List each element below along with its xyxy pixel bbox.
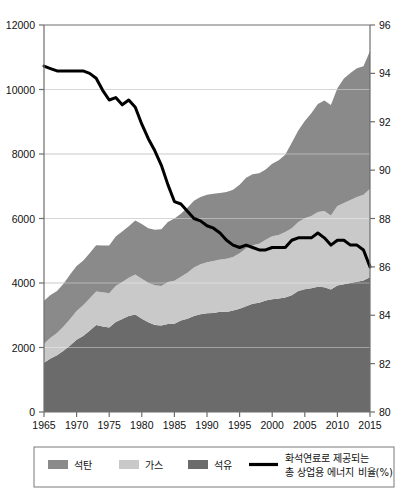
y2-tick-label: 82 [379, 358, 391, 370]
y2-tick-label: 86 [379, 261, 391, 273]
y2-tick-label: 94 [379, 67, 391, 79]
y2-tick-label: 90 [379, 164, 391, 176]
y2-tick-label: 80 [379, 406, 391, 418]
x-tick-label: 1975 [98, 419, 122, 431]
y-tick-label: 10000 [6, 84, 35, 96]
x-tick-label: 2015 [358, 419, 382, 431]
chart-legend: 석탄 가스 석유 화석연료로 제공되는 총 상업용 에너지 비율(%) [34, 447, 394, 487]
energy-area-chart: 020004000600080001000012000 808284868890… [0, 0, 408, 491]
y2-tick-label: 88 [379, 213, 391, 225]
x-tick-label: 1985 [163, 419, 187, 431]
y-tick-label: 4000 [12, 277, 36, 289]
x-tick-label: 1990 [195, 419, 219, 431]
legend-swatch-gas [119, 460, 139, 469]
x-tick-label: 2000 [261, 419, 285, 431]
y-tick-label: 0 [29, 406, 35, 418]
legend-label-gas: 가스 [145, 460, 163, 471]
x-tick-label: 2005 [293, 419, 317, 431]
y2-tick-label: 92 [379, 116, 391, 128]
x-tick-label: 1995 [228, 419, 252, 431]
y2-tick-label: 84 [379, 309, 391, 321]
legend-label-fossil-share-line1: 화석연료로 제공되는 [285, 453, 369, 464]
x-tick-label: 1970 [65, 419, 89, 431]
y-tick-label: 2000 [12, 342, 36, 354]
chart-container: 020004000600080001000012000 808284868890… [0, 0, 408, 491]
legend-label-coal: 석탄 [74, 460, 92, 471]
x-tick-label: 1980 [130, 419, 154, 431]
x-tick-label: 2010 [326, 419, 350, 431]
y-tick-label: 12000 [6, 19, 35, 31]
legend-label-oil: 석유 [214, 460, 232, 471]
y-tick-label: 6000 [12, 213, 36, 225]
x-tick-label: 1965 [32, 419, 56, 431]
legend-swatch-coal [48, 460, 68, 469]
y2-tick-label: 96 [379, 19, 391, 31]
legend-swatch-oil [188, 460, 208, 469]
legend-label-fossil-share-line2: 총 상업용 에너지 비율(%) [285, 466, 393, 478]
y-tick-label: 8000 [12, 148, 36, 160]
